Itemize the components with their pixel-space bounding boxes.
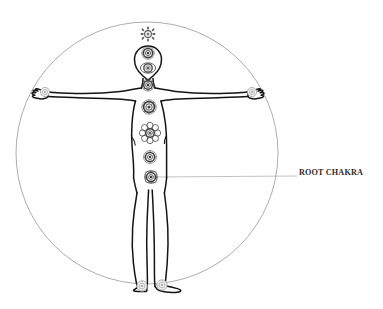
hip-right-outline	[164, 178, 166, 193]
right-arm-outline	[155, 88, 248, 94]
left-leg-inner-outline	[147, 190, 149, 287]
torso-right-outline	[161, 101, 167, 178]
root-chakra-leader-line	[152, 176, 297, 177]
solar-plexus-chakra	[139, 122, 160, 143]
crown-chakra	[141, 27, 156, 42]
left-leg-outer-outline	[132, 193, 138, 287]
left-arm-outline	[48, 88, 142, 94]
right-leg-inner-outline	[152, 190, 155, 287]
chakra-figure-illustration	[0, 0, 383, 309]
root-chakra-label: ROOT CHAKRA	[299, 168, 363, 178]
left-arm-lower-outline	[48, 97, 136, 101]
waist-left-detail	[133, 138, 136, 145]
right-foot-chakra	[157, 280, 168, 291]
heart-chakra	[142, 100, 156, 114]
chakra-diagram-canvas: ROOT CHAKRA	[0, 0, 383, 309]
throat-chakra	[142, 79, 154, 91]
left-hand-chakra	[40, 87, 49, 96]
sacral-chakra	[144, 151, 157, 164]
right-leg-outer-outline	[164, 193, 168, 287]
head-center-chakra	[140, 63, 155, 73]
right-hand-chakra	[247, 87, 256, 96]
hip-left-outline	[134, 178, 137, 193]
third-eye-chakra	[142, 47, 154, 59]
right-arm-lower-outline	[161, 97, 248, 101]
root-chakra-symbol	[144, 170, 157, 183]
left-foot-chakra	[137, 281, 148, 292]
